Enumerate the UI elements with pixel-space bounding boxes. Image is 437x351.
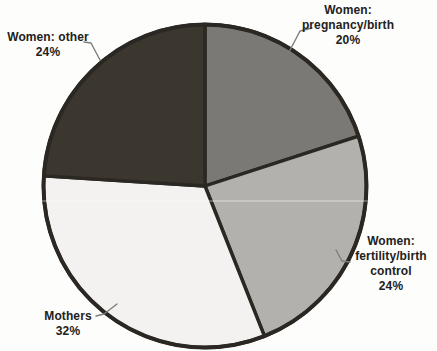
label-mothers: Mothers 32%: [44, 309, 91, 339]
pie-chart: Women: pregnancy/birth 20% Women: other …: [0, 0, 437, 351]
label-women-other: Women: other 24%: [7, 30, 89, 60]
label-women-fertility-birth-control: Women: fertility/birth control 24%: [355, 234, 427, 294]
label-women-pregnancy-birth: Women: pregnancy/birth 20%: [302, 3, 394, 48]
